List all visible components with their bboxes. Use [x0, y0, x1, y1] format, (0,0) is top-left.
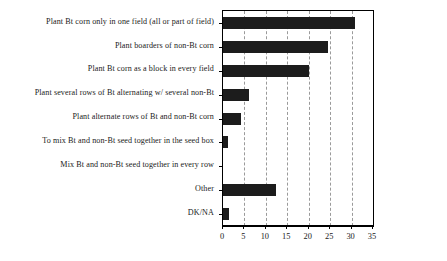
y-axis-tick — [219, 166, 223, 167]
x-axis-tick-label: 5 — [241, 231, 245, 243]
bar — [223, 65, 309, 77]
x-axis-tick — [243, 225, 244, 229]
bar-row — [223, 35, 373, 59]
category-label: Plant alternate rows of Bt and non-Bt co… — [0, 106, 218, 130]
bar — [223, 208, 229, 220]
x-axis-tick — [286, 225, 287, 229]
category-label: Plant Bt corn as a block in every field — [0, 58, 218, 82]
bars-layer — [223, 11, 373, 226]
category-label: To mix Bt and non-Bt seed together in th… — [0, 129, 218, 153]
x-axis-line — [222, 225, 372, 226]
bar-chart: Plant Bt corn only in one field (all or … — [0, 0, 447, 261]
bar-row — [223, 154, 373, 178]
y-axis-tick — [219, 142, 223, 143]
x-axis-tick — [308, 225, 309, 229]
bar — [223, 17, 355, 29]
x-axis-tick-label: 35 — [368, 231, 376, 243]
y-axis-tick — [219, 190, 223, 191]
y-axis-tick — [219, 23, 223, 24]
x-axis-tick-label: 25 — [325, 231, 333, 243]
bar — [223, 184, 276, 196]
bar-row — [223, 202, 373, 226]
y-axis-tick — [219, 95, 223, 96]
x-axis-tick — [351, 225, 352, 229]
x-axis-tick-label: 10 — [261, 231, 269, 243]
bar — [223, 89, 249, 101]
category-label: Other — [0, 177, 218, 201]
x-axis-tick-label: 0 — [220, 231, 224, 243]
bar — [223, 41, 328, 53]
x-axis-tick — [222, 225, 223, 229]
category-label: Mix Bt and non-Bt seed together in every… — [0, 153, 218, 177]
category-axis-labels: Plant Bt corn only in one field (all or … — [0, 10, 218, 225]
x-axis-tick-labels: 05101520253035 — [222, 231, 372, 245]
y-axis-tick — [219, 214, 223, 215]
category-label: DK/NA — [0, 201, 218, 225]
bar-row — [223, 83, 373, 107]
x-axis-tick-label: 15 — [282, 231, 290, 243]
bar — [223, 136, 228, 148]
bar-row — [223, 59, 373, 83]
bar-row — [223, 178, 373, 202]
x-axis-tick — [372, 225, 373, 229]
category-label: Plant boarders of non-Bt corn — [0, 34, 218, 58]
y-axis-tick — [219, 47, 223, 48]
bar-row — [223, 107, 373, 131]
category-label: Plant Bt corn only in one field (all or … — [0, 10, 218, 34]
category-label: Plant several rows of Bt alternating w/ … — [0, 82, 218, 106]
bar — [223, 113, 241, 125]
x-axis-tick — [265, 225, 266, 229]
bar-row — [223, 11, 373, 35]
x-axis-tick-label: 30 — [346, 231, 354, 243]
y-axis-tick — [219, 119, 223, 120]
bar-row — [223, 130, 373, 154]
y-axis-tick — [219, 71, 223, 72]
x-axis-tick — [329, 225, 330, 229]
plot-area — [222, 10, 374, 227]
x-axis-tick-label: 20 — [304, 231, 312, 243]
